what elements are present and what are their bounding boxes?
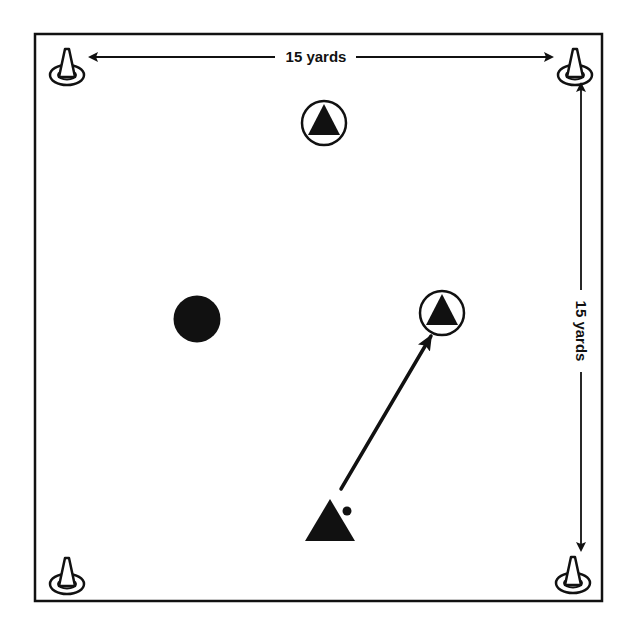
right-dimension-label: 15 yards <box>573 301 590 362</box>
circled-player-icon <box>302 101 346 145</box>
ball-icon <box>343 507 352 516</box>
circled-player-icon <box>420 291 464 335</box>
drill-diagram: 15 yards 15 yards <box>0 0 631 642</box>
top-dimension-label: 15 yards <box>286 48 347 65</box>
defender-icon <box>174 296 221 343</box>
